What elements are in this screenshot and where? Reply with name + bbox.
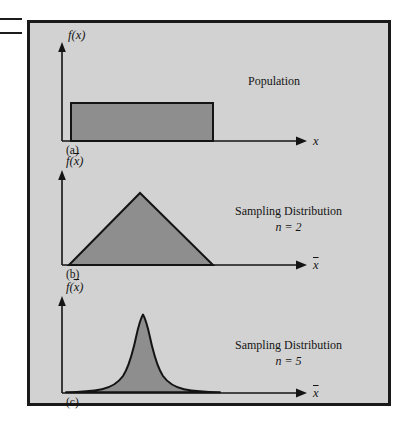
panel-a-x-axis-arrowhead — [296, 137, 307, 146]
panel-c-y-axis-label: f(x) — [66, 281, 83, 294]
panel-a-caption-title: Population — [248, 74, 300, 88]
panel-c-caption: Sampling Distribution n = 5 — [235, 337, 342, 369]
panel-c-x-axis-label: x — [313, 387, 319, 400]
triangular-density-region — [69, 193, 213, 265]
normal-density-region — [66, 315, 220, 393]
panel-c-sampling-n5: f(x) x (c) Sampling Distribution n = 5 — [30, 273, 388, 409]
panel-a-population: f(x) x (a) Population — [30, 23, 388, 155]
edge-rule-marks — [0, 0, 26, 60]
panel-b-x-axis-label: x — [313, 259, 319, 272]
panel-a-y-axis-label: f(x) — [68, 29, 85, 42]
edge-rule-mark-1 — [0, 18, 22, 20]
panel-b-sampling-n2: f(x) x (b) Sampling Distribution n = 2 — [30, 149, 388, 279]
panel-a-x-axis-label: x — [313, 135, 319, 148]
panel-c-y-axis-arrowhead — [58, 296, 66, 306]
panel-b-y-axis-arrowhead — [58, 170, 66, 180]
plot-stack: f(x) x (a) Population f(x) x (b) Samplin… — [30, 23, 388, 403]
panel-c-caption-n: n = 5 — [235, 353, 342, 369]
panel-b-caption-n: n = 2 — [235, 219, 342, 235]
panel-c-tag: (c) — [66, 397, 79, 409]
figure-frame: f(x) x (a) Population f(x) x (b) Samplin… — [27, 20, 391, 406]
panel-b-x-axis-arrowhead — [296, 261, 307, 270]
panel-a-plot — [30, 23, 394, 155]
panel-a-caption: Population — [248, 73, 300, 89]
panel-b-y-axis-label: f(x) — [66, 155, 83, 168]
edge-rule-mark-2 — [0, 32, 22, 34]
panel-b-caption: Sampling Distribution n = 2 — [235, 203, 342, 235]
uniform-density-region — [71, 103, 213, 141]
panel-c-x-axis-arrowhead — [296, 389, 307, 398]
panel-c-caption-title: Sampling Distribution — [235, 338, 342, 352]
panel-a-y-axis-arrowhead — [58, 42, 66, 52]
panel-b-caption-title: Sampling Distribution — [235, 204, 342, 218]
